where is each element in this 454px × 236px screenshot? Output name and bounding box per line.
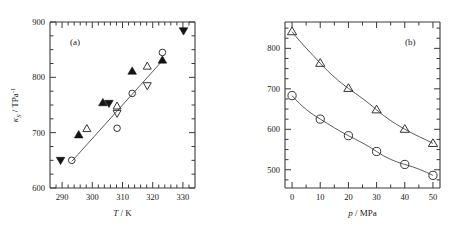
panel-a-series-filled-up-triangle: [74, 56, 166, 138]
panel-a-series-open-down-triangle: [113, 83, 151, 118]
data-point: [56, 157, 65, 164]
panel-a-tag: (a): [70, 37, 80, 47]
panel-a-ytick-700: 700: [32, 128, 45, 138]
panel-b-series-lower-circle: [288, 92, 437, 180]
panel-a: 600 700 800 900: [0, 0, 227, 236]
panel-a-xtick-310: 310: [116, 192, 129, 202]
panel-a-ytick-800: 800: [32, 72, 45, 82]
panel-a-series-open-up-triangle: [83, 62, 151, 131]
data-point: [158, 56, 167, 63]
panel-a-xtick-290: 290: [56, 192, 69, 202]
data-point: [287, 27, 296, 35]
panel-a-yaxis-unit: / TPa: [10, 93, 20, 114]
data-point: [143, 62, 151, 69]
data-point: [159, 49, 166, 56]
panel-a-series-filled-down-triangle: [56, 28, 188, 165]
panel-b-ytick-800: 800: [267, 43, 280, 53]
panel-b-xtick-40: 40: [401, 192, 410, 202]
panel-a-ytick-900: 900: [32, 17, 45, 27]
panel-b-xaxis-title: p / MPa: [347, 208, 377, 218]
panel-a-xtick-330: 330: [177, 192, 190, 202]
panel-b-xtick-10: 10: [316, 192, 325, 202]
data-point: [128, 67, 137, 74]
data-point: [114, 125, 121, 132]
panel-b-xtick-20: 20: [344, 192, 353, 202]
panel-a-xaxis-title: T / K: [113, 208, 132, 218]
panel-b-xtick-50: 50: [429, 192, 438, 202]
data-point: [83, 125, 91, 132]
panel-a-xtick-300: 300: [86, 192, 99, 202]
data-point: [372, 105, 381, 113]
data-point: [129, 90, 136, 97]
panel-b-upper-curve: [292, 32, 433, 144]
panel-b-ytick-700: 700: [267, 84, 280, 94]
panel-b-lower-curve: [292, 96, 433, 176]
data-point: [74, 131, 83, 138]
figure-container: 600 700 800 900: [0, 0, 454, 236]
panel-b-xtick-0: 0: [290, 192, 294, 202]
panel-b-tag: (b): [405, 37, 416, 47]
panel-b-xaxis-unit: / MPa: [353, 208, 377, 218]
data-point: [288, 92, 296, 100]
data-point: [179, 28, 188, 35]
panel-a-series-open-circle: [68, 49, 165, 163]
panel-b-axes: [285, 22, 440, 188]
panel-a-yaxis-title: κS / TPa-1: [9, 88, 22, 122]
panel-b-svg: 500 600 700 800: [227, 0, 454, 236]
panel-a-yaxis-superscript: -1: [9, 88, 16, 93]
panel-a-ytick-600: 600: [32, 183, 45, 193]
data-point: [428, 139, 437, 147]
panel-a-xaxis-unit: / K: [118, 208, 132, 218]
panel-b: 500 600 700 800: [227, 0, 454, 236]
panel-b-xtick-30: 30: [372, 192, 381, 202]
panel-b-ytick-500: 500: [267, 165, 280, 175]
panel-a-svg: 600 700 800 900: [0, 0, 227, 236]
panel-b-ytick-600: 600: [267, 124, 280, 134]
data-point: [143, 83, 151, 90]
panel-a-fit-line: [72, 61, 163, 162]
panel-a-xtick-320: 320: [146, 192, 159, 202]
data-point: [68, 157, 75, 164]
